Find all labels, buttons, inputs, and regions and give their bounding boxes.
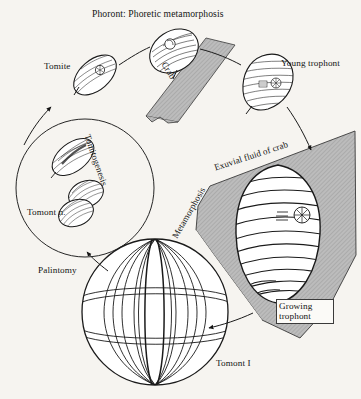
- label-palintomy: Palintomy: [38, 265, 77, 275]
- diagram-title: Phoront: Phoretic metamorphosis: [92, 9, 224, 20]
- arrow-tomite-to-phoront: [119, 47, 150, 65]
- label-young-trophont: Young trophont: [281, 58, 343, 68]
- stage-tomite: [66, 47, 123, 102]
- label-tomont-i: Tomont I: [216, 358, 251, 368]
- arrow-circle-to-tomite: [24, 107, 51, 145]
- arrow-young-to-growing: [287, 107, 311, 150]
- stage-tomont-i: [82, 239, 229, 385]
- label-tomont-n: Tomont n.: [27, 207, 66, 217]
- label-tomite: Tomite: [44, 61, 71, 71]
- label-growing-trophont: Growing trophont: [276, 299, 334, 324]
- diagram-canvas: Phoront: Phoretic metamorphosis Tomite C…: [0, 0, 361, 399]
